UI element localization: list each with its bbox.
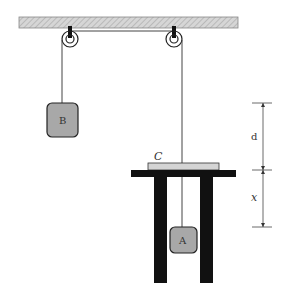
dim-x-label: x (251, 191, 258, 204)
table-top (131, 170, 236, 177)
table-leg-right (200, 177, 213, 283)
dimension-markers (252, 103, 272, 227)
pulley-right (166, 26, 182, 47)
pulley-left (62, 26, 78, 47)
block-b-label: B (59, 115, 66, 126)
table-leg-left (154, 177, 167, 283)
dim-d-label: d (251, 131, 258, 142)
platform-c-label: C (154, 150, 163, 163)
pulley-diagram: B C A d x (0, 0, 287, 299)
ceiling (19, 17, 238, 28)
block-a-label: A (178, 235, 187, 246)
platform-c (148, 163, 219, 170)
